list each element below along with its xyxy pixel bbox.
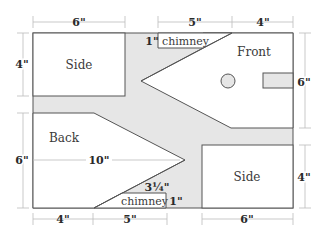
dim-bottom-chimney-height: 1" [169,195,182,208]
dim-top-1: 6" [72,16,85,29]
dim-left-2: 6" [15,154,28,167]
bottom-chimney-label: chimney [121,195,169,208]
side-top-label: Side [66,58,93,72]
dim-bottom-3: 6" [240,213,253,226]
dim-left-1: 4" [15,58,28,71]
dim-right-2: 4" [297,171,310,184]
cutting-diagram: Side Front Back Side chimney chimney 6" … [0,0,322,240]
top-chimney-label: chimney [162,35,210,48]
front-label: Front [237,45,271,59]
dim-bottom-1: 4" [56,213,69,226]
side-bottom-label: Side [234,170,261,184]
dim-right-1: 6" [297,76,310,89]
dim-bottom-chimney-slope: 3¼" [145,181,170,194]
dim-top-chimney-height: 1" [145,35,158,48]
dim-top-3: 4" [256,16,269,29]
front-hole-circle [221,74,235,88]
dim-top-2: 5" [188,16,201,29]
dim-back-width: 10" [88,154,109,167]
back-label: Back [49,131,80,145]
front-tab-rect [263,73,293,88]
dim-bottom-2: 5" [123,213,136,226]
